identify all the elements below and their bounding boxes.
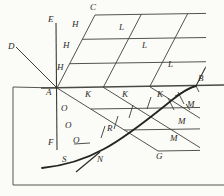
clip-right-lower xyxy=(200,92,224,162)
label-L-3: L xyxy=(168,60,173,69)
ray-DA xyxy=(16,47,57,88)
label-H-2: H xyxy=(63,41,70,50)
label-S: S xyxy=(62,155,67,164)
label-G: G xyxy=(156,152,163,161)
label-K-1: K xyxy=(85,90,91,99)
geometry-figure: D E F A B C G H H H L L L K K K O O O M … xyxy=(0,0,224,196)
label-L-2: L xyxy=(142,41,147,50)
label-E: E xyxy=(48,15,54,24)
label-F: F xyxy=(48,138,54,147)
label-M-2: M xyxy=(178,117,186,126)
label-A: A xyxy=(46,88,52,97)
label-O-3: O xyxy=(73,136,80,145)
label-L-1: L xyxy=(119,23,124,32)
label-O-2: O xyxy=(65,121,72,130)
label-D: D xyxy=(8,42,15,51)
label-K-3: K xyxy=(157,90,163,99)
label-C: C xyxy=(90,3,96,12)
label-R: R xyxy=(107,124,113,133)
clip-right-upper xyxy=(206,0,224,84)
label-H-3: H xyxy=(72,20,79,29)
label-M-3: M xyxy=(170,134,178,143)
label-B: B xyxy=(198,74,204,83)
label-O-1: O xyxy=(61,104,68,113)
label-K-2: K xyxy=(122,90,128,99)
diagram-canvas xyxy=(0,0,224,196)
label-H-1: H xyxy=(57,63,64,72)
label-M-1: M xyxy=(187,100,195,109)
label-N: N xyxy=(97,155,103,164)
